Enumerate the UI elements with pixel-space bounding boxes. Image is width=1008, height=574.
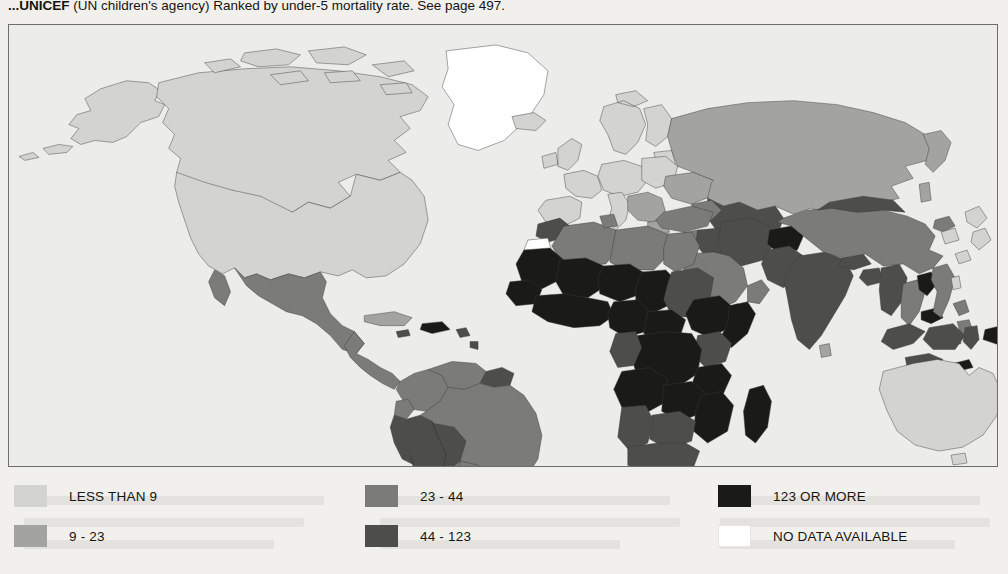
legend-item: 123 OR MORE <box>718 476 907 516</box>
legend-label-no-data: NO DATA AVAILABLE <box>773 529 907 544</box>
region-south-africa <box>628 443 700 466</box>
legend-label-9-23: 9 - 23 <box>69 529 105 544</box>
legend-label-23-44: 23 - 44 <box>420 489 463 504</box>
region-sakhalin <box>919 182 931 202</box>
map-caption: ...UNICEF (UN children's agency) Ranked … <box>8 0 908 14</box>
legend-column-2: 23 - 44 44 - 123 <box>365 476 471 556</box>
region-taiwan <box>951 276 961 290</box>
legend-swatch-no-data <box>718 525 751 547</box>
caption-source: ...UNICEF <box>8 0 70 13</box>
legend-swatch-44-123 <box>365 525 398 547</box>
legend-label-44-123: 44 - 123 <box>420 529 471 544</box>
legend-item: NO DATA AVAILABLE <box>718 516 907 556</box>
legend-item: 23 - 44 <box>365 476 471 516</box>
map-legend: LESS THAN 9 9 - 23 23 - 44 44 - 123 123 … <box>0 476 1008 574</box>
legend-swatch-23-44 <box>365 485 398 507</box>
region-sri-lanka <box>819 344 831 358</box>
caption-description: (UN children's agency) Ranked by under-5… <box>70 0 506 13</box>
legend-column-3: 123 OR MORE NO DATA AVAILABLE <box>718 476 907 556</box>
world-map-panel <box>8 24 998 467</box>
legend-item: 9 - 23 <box>14 516 157 556</box>
region-tasmania <box>951 453 967 465</box>
world-map-svg <box>9 25 997 466</box>
legend-label-123-or-more: 123 OR MORE <box>773 489 866 504</box>
legend-swatch-9-23 <box>14 525 47 547</box>
legend-item: 44 - 123 <box>365 516 471 556</box>
legend-swatch-less-than-9 <box>14 485 47 507</box>
legend-swatch-123-or-more <box>718 485 751 507</box>
legend-label-less-than-9: LESS THAN 9 <box>69 489 157 504</box>
legend-item: LESS THAN 9 <box>14 476 157 516</box>
legend-column-1: LESS THAN 9 9 - 23 <box>14 476 157 556</box>
